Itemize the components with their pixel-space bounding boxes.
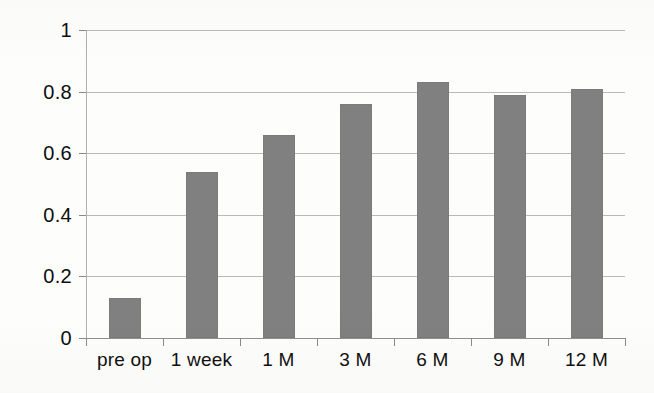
y-axis-tick-mark — [79, 276, 86, 277]
x-axis-tick-label: 1 week — [163, 349, 240, 371]
bar-cell — [240, 30, 317, 338]
x-axis-tick-mark — [317, 338, 318, 346]
bar-9-m — [494, 95, 526, 338]
x-axis-tick-mark — [548, 338, 549, 346]
x-axis-tick-mark — [394, 338, 395, 346]
bar-cell — [163, 30, 240, 338]
x-axis-tick-mark — [471, 338, 472, 346]
x-axis-tick-label: 3 M — [317, 349, 394, 371]
bar-3-m — [340, 104, 372, 338]
x-axis-tick-marks — [86, 338, 625, 346]
bar-cell — [317, 30, 394, 338]
x-axis-tick-mark — [240, 338, 241, 346]
y-axis-tick-mark — [79, 92, 86, 93]
bar-1-m — [263, 135, 295, 338]
chart-figure: 10.80.60.40.20 pre op1 week1 M3 M6 M9 M1… — [0, 0, 654, 393]
y-axis-tick-label: 0.4 — [8, 203, 72, 226]
y-axis-tick-label: 0.6 — [8, 142, 72, 165]
y-axis-tick-mark — [79, 153, 86, 154]
y-axis-tick-mark — [79, 215, 86, 216]
y-axis-tick-label: 0 — [8, 327, 72, 350]
y-axis-tick-label: 0.8 — [8, 80, 72, 103]
y-axis-tick-label: 0.2 — [8, 265, 72, 288]
x-axis-tick-label: 1 M — [240, 349, 317, 371]
bar-1-week — [186, 172, 218, 338]
bar-series — [86, 30, 625, 338]
x-axis-tick-label: 12 M — [548, 349, 625, 371]
x-axis-tick-mark — [86, 338, 87, 346]
y-axis-tick-mark — [79, 338, 86, 339]
bar-6-m — [417, 82, 449, 338]
x-axis-tick-labels: pre op1 week1 M3 M6 M9 M12 M — [86, 349, 625, 371]
y-axis-tick-mark — [79, 30, 86, 31]
x-axis-tick-label: pre op — [86, 349, 163, 371]
x-axis-tick-label: 6 M — [394, 349, 471, 371]
x-axis-tick-mark — [163, 338, 164, 346]
bar-pre-op — [109, 298, 141, 338]
y-axis-tick-label: 1 — [8, 19, 72, 42]
x-axis-tick-mark — [625, 338, 626, 346]
x-axis-tick-label: 9 M — [471, 349, 548, 371]
bar-12-m — [571, 89, 603, 338]
bar-cell — [548, 30, 625, 338]
bar-cell — [86, 30, 163, 338]
bar-cell — [394, 30, 471, 338]
bar-cell — [471, 30, 548, 338]
